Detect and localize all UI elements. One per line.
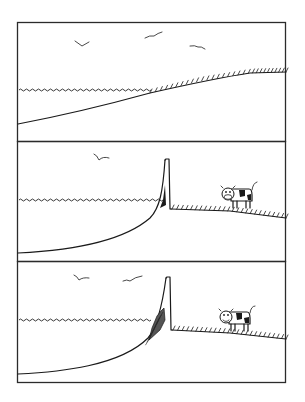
- grass-blade: [202, 77, 204, 81]
- sea-surface: [19, 89, 151, 91]
- grass-blade: [196, 327, 198, 331]
- grass-blade: [259, 211, 261, 215]
- comic-strip: [0, 0, 305, 402]
- grass-blade: [223, 329, 225, 333]
- grass-blade: [228, 329, 230, 333]
- grass-blade: [191, 79, 193, 83]
- grass-blade: [212, 75, 214, 79]
- grass-blade: [197, 78, 199, 82]
- grass-blade: [172, 205, 174, 209]
- bird-icon: [190, 46, 205, 49]
- grass-blade: [282, 213, 284, 217]
- bird-icon: [145, 32, 162, 38]
- grass-blade: [246, 209, 248, 213]
- grass-blade: [286, 68, 288, 72]
- bird-icon: [94, 154, 109, 160]
- sea-surface: [19, 199, 163, 201]
- panel-2: [18, 142, 289, 262]
- grass-blade: [222, 73, 224, 77]
- sea-floor: [18, 160, 165, 253]
- grass-blade: [246, 331, 248, 335]
- grass-blade: [209, 206, 211, 210]
- grass-blade: [204, 206, 206, 210]
- grass-blade: [268, 333, 270, 337]
- grass-blade: [209, 328, 211, 332]
- grass-blade: [177, 205, 179, 209]
- grass-blade: [217, 74, 219, 78]
- sea-floor: [18, 278, 166, 374]
- seawall: [166, 277, 172, 330]
- grass-blade: [205, 328, 207, 332]
- grass-blade: [282, 335, 284, 339]
- seawall: [165, 159, 171, 209]
- grass-blade: [264, 211, 266, 215]
- grass-blade: [186, 80, 188, 84]
- grass-blade: [237, 330, 239, 334]
- grass-blade: [200, 206, 202, 210]
- grass-blade: [268, 212, 270, 216]
- grass-blade: [241, 330, 243, 334]
- grass-blade: [186, 205, 188, 209]
- grass-blade: [218, 207, 220, 211]
- grass-blade: [181, 205, 183, 209]
- ground-slope: [18, 72, 286, 124]
- grass-blade: [228, 207, 230, 211]
- grass-blade: [178, 326, 180, 330]
- grass-blade: [207, 76, 209, 80]
- grass-blade: [273, 334, 275, 338]
- grass-blade: [214, 328, 216, 332]
- grass-blade: [277, 334, 279, 338]
- grass-blade: [191, 206, 193, 210]
- grass-blade: [255, 332, 257, 336]
- grass-blade: [250, 210, 252, 214]
- grass-blade: [232, 329, 234, 333]
- grass-blade: [223, 207, 225, 211]
- bird-icon: [123, 276, 142, 281]
- grass-blade: [259, 332, 261, 336]
- grass-blade: [195, 206, 197, 210]
- grass-blade: [264, 333, 266, 337]
- grass-blade: [286, 335, 288, 339]
- sea-surface: [19, 319, 151, 321]
- grass-blade: [191, 327, 193, 331]
- grass-blade: [277, 213, 279, 217]
- grass-blade: [182, 326, 184, 330]
- grass-blade: [250, 331, 252, 335]
- grass-blade: [286, 214, 288, 218]
- grass-blade: [219, 328, 221, 332]
- panel-3: [18, 262, 289, 383]
- grass-blade: [173, 326, 175, 330]
- grass-blade: [255, 210, 257, 214]
- panel-1: [18, 23, 289, 142]
- grass-blade: [187, 327, 189, 331]
- bird-icon: [75, 41, 89, 46]
- field-ground: [172, 330, 286, 339]
- grass-blade: [176, 83, 178, 87]
- grass-blade: [273, 212, 275, 216]
- field-ground: [171, 209, 286, 218]
- panel-1-border: [18, 23, 286, 142]
- grass-tufts: [150, 68, 288, 93]
- bird-icon: [74, 275, 89, 280]
- grass-blade: [241, 208, 243, 212]
- cow-icon: [221, 182, 257, 208]
- cow-icon: [219, 306, 255, 331]
- grass-blade: [214, 206, 216, 210]
- grass-blade: [181, 82, 183, 86]
- grass-blade: [200, 327, 202, 331]
